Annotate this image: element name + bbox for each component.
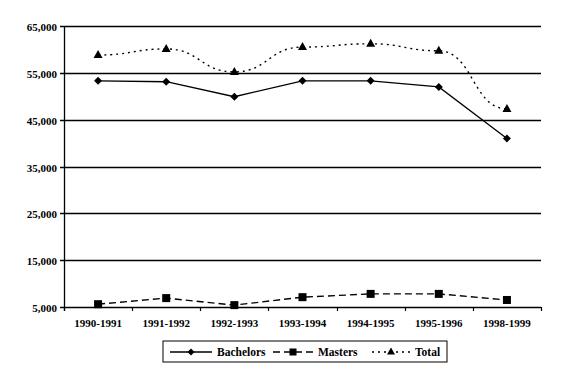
- line-chart: 5,00015,00025,00035,00045,00055,00065,00…: [0, 0, 567, 386]
- x-tick-label: 1995-1996: [415, 317, 463, 329]
- series-line: [98, 44, 507, 109]
- y-tick-label: 65,000: [27, 21, 58, 33]
- x-tick-label: 1992-1993: [211, 317, 259, 329]
- triangle-marker: [162, 44, 171, 52]
- y-tick-label: 15,000: [27, 255, 58, 267]
- square-marker: [230, 301, 238, 309]
- diamond-marker: [367, 77, 375, 85]
- y-axis: 5,00015,00025,00035,00045,00055,00065,00…: [27, 21, 65, 314]
- x-tick-label: 1998-1999: [483, 317, 531, 329]
- legend: BachelorsMastersTotal: [163, 341, 447, 362]
- square-marker: [94, 300, 102, 308]
- y-tick-label: 35,000: [27, 162, 58, 174]
- triangle-marker: [298, 42, 307, 50]
- legend-label: Bachelors: [217, 346, 266, 358]
- legend-label: Masters: [318, 346, 358, 358]
- y-tick-label: 5,000: [32, 302, 57, 314]
- x-tick-label: 1994-1995: [347, 317, 395, 329]
- triangle-marker: [502, 104, 511, 112]
- series-group: [94, 39, 512, 309]
- triangle-marker: [230, 67, 239, 75]
- square-marker: [162, 294, 170, 302]
- square-marker: [290, 349, 297, 356]
- diamond-marker: [230, 93, 238, 101]
- square-marker: [367, 290, 375, 298]
- x-tick-label: 1993-1994: [279, 317, 327, 329]
- gridlines: [60, 27, 541, 308]
- triangle-marker: [94, 50, 103, 58]
- triangle-marker: [434, 46, 443, 54]
- y-tick-label: 55,000: [27, 68, 58, 80]
- diamond-marker: [94, 77, 102, 85]
- diamond-marker: [299, 77, 307, 85]
- series-line: [98, 81, 507, 139]
- square-marker: [503, 296, 511, 304]
- series-bachelors: [94, 77, 511, 143]
- series-total: [94, 39, 512, 112]
- series-masters: [94, 290, 511, 309]
- legend-label: Total: [415, 346, 440, 358]
- square-marker: [299, 293, 307, 301]
- diamond-marker: [162, 78, 170, 86]
- y-tick-label: 45,000: [27, 115, 58, 127]
- triangle-marker: [366, 39, 375, 47]
- y-tick-label: 25,000: [27, 208, 58, 220]
- square-marker: [435, 290, 443, 298]
- x-tick-label: 1991-1992: [142, 317, 190, 329]
- x-axis: 1990-19911991-19921992-19931993-19941994…: [65, 307, 542, 329]
- x-tick-label: 1990-1991: [74, 317, 122, 329]
